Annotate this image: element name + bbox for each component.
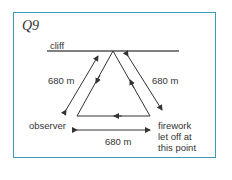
cliff-label: cliff (50, 40, 64, 51)
firework-label-line-3: this point (158, 142, 196, 153)
right-side-arrow (130, 80, 134, 88)
right-distance-label: 680 m (152, 75, 178, 86)
echo-diagram (0, 0, 232, 180)
left-side-arrow (96, 75, 100, 83)
left-distance-label: 680 m (48, 75, 74, 86)
firework-label: firework let off at this point (158, 120, 196, 153)
observer-label: observer (29, 120, 66, 131)
firework-label-line-1: firework (158, 120, 196, 131)
firework-label-line-2: let off at (158, 131, 196, 142)
bottom-distance-label: 680 m (105, 136, 131, 147)
